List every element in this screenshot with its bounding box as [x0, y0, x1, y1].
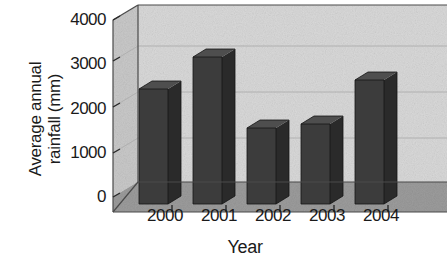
back-wall: [138, 5, 447, 182]
bar-chart: Average annual rainfall (mm) 01000200030…: [0, 0, 447, 271]
bar-2004: [355, 72, 397, 204]
bar-2000: [139, 81, 181, 204]
bar-2003: [301, 116, 343, 204]
x-axis-title: Year: [150, 237, 340, 258]
left-wall: [113, 5, 138, 197]
bar-2002: [247, 120, 289, 204]
x-axis-tick-labels: 20002001200220032004: [113, 206, 447, 234]
x-tick-label: 2004: [341, 206, 421, 226]
bar-2001: [193, 49, 235, 204]
